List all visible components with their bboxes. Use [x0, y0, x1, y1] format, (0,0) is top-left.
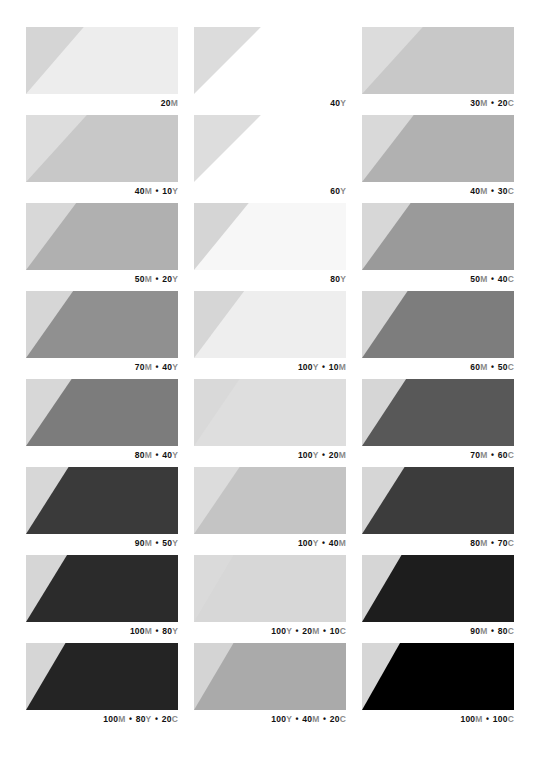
swatch-cell[interactable]: 90M • 50Y — [26, 467, 178, 555]
swatch-cell[interactable]: 40M • 10Y — [26, 115, 178, 203]
swatch-patch[interactable] — [362, 643, 514, 710]
ink-letter: C — [508, 186, 514, 196]
ink-percent: 50 — [498, 362, 508, 372]
ink-token: 60C — [498, 450, 514, 460]
swatch-grid: 20M40Y30M • 20C40M • 10Y60Y40M • 30C50M … — [26, 27, 514, 731]
swatch-patch[interactable] — [194, 379, 346, 446]
swatch-cell[interactable]: 80M • 40Y — [26, 379, 178, 467]
swatch-patch[interactable] — [362, 555, 514, 622]
swatch-label: 60Y — [194, 184, 346, 198]
swatch-cell[interactable]: 100Y • 10M — [194, 291, 346, 379]
swatch-cell[interactable]: 100M • 100C — [362, 643, 514, 731]
ink-token: 100C — [493, 714, 514, 724]
ink-token: 40C — [498, 274, 514, 284]
ink-token: 100Y — [271, 626, 292, 636]
ink-token: 20C — [162, 714, 178, 724]
swatch-patch[interactable] — [26, 379, 178, 446]
ink-letter: Y — [340, 186, 346, 196]
swatch-cell[interactable]: 20M — [26, 27, 178, 115]
label-separator: • — [319, 362, 329, 372]
ink-token: 70M — [470, 450, 487, 460]
ink-percent: 40 — [302, 714, 312, 724]
swatch-label: 100Y • 40M — [194, 536, 346, 550]
swatch-patch[interactable] — [26, 555, 178, 622]
swatch-cell[interactable]: 60Y — [194, 115, 346, 203]
ink-token: 40Y — [162, 362, 178, 372]
swatch-patch[interactable] — [194, 467, 346, 534]
swatch-cell[interactable]: 100Y • 40M • 20C — [194, 643, 346, 731]
label-separator: • — [487, 274, 497, 284]
ink-letter: M — [339, 538, 346, 548]
swatch-patch[interactable] — [26, 115, 178, 182]
swatch-patch[interactable] — [26, 203, 178, 270]
ink-token: 20C — [498, 98, 514, 108]
swatch-patch[interactable] — [194, 203, 346, 270]
ink-letter: M — [145, 626, 152, 636]
ink-letter: Y — [340, 274, 346, 284]
label-separator: • — [487, 362, 497, 372]
label-separator: • — [151, 714, 161, 724]
swatch-patch[interactable] — [194, 643, 346, 710]
swatch-patch[interactable] — [362, 379, 514, 446]
ink-percent: 20 — [162, 714, 172, 724]
swatch-patch[interactable] — [362, 203, 514, 270]
swatch-cell[interactable]: 40Y — [194, 27, 346, 115]
ink-token: 100M — [130, 626, 152, 636]
swatch-patch[interactable] — [194, 115, 346, 182]
swatch-cell[interactable]: 40M • 30C — [362, 115, 514, 203]
swatch-patch[interactable] — [194, 27, 346, 94]
swatch-cell[interactable]: 100Y • 20M • 10C — [194, 555, 346, 643]
ink-token: 50C — [498, 362, 514, 372]
ink-letter: Y — [172, 186, 178, 196]
ink-letter: C — [508, 450, 514, 460]
swatch-cell[interactable]: 100Y • 20M — [194, 379, 346, 467]
ink-percent: 40 — [135, 186, 145, 196]
ink-letter: C — [508, 626, 514, 636]
swatch-cell[interactable]: 50M • 20Y — [26, 203, 178, 291]
swatch-cell[interactable]: 70M • 40Y — [26, 291, 178, 379]
ink-token: 40Y — [330, 98, 346, 108]
swatch-cell[interactable]: 100M • 80Y — [26, 555, 178, 643]
swatch-patch[interactable] — [194, 555, 346, 622]
label-separator: • — [292, 714, 302, 724]
ink-percent: 80 — [162, 626, 172, 636]
swatch-patch[interactable] — [362, 291, 514, 358]
swatch-patch[interactable] — [26, 467, 178, 534]
swatch-cell[interactable]: 100Y • 40M — [194, 467, 346, 555]
swatch-cell[interactable]: 80Y — [194, 203, 346, 291]
ink-token: 70C — [498, 538, 514, 548]
swatch-patch[interactable] — [362, 27, 514, 94]
ink-percent: 20 — [498, 98, 508, 108]
ink-percent: 100 — [103, 714, 118, 724]
ink-token: 20M — [329, 450, 346, 460]
swatch-cell[interactable]: 50M • 40C — [362, 203, 514, 291]
swatch-patch[interactable] — [194, 291, 346, 358]
ink-percent: 80 — [136, 714, 146, 724]
swatch-patch[interactable] — [362, 467, 514, 534]
ink-token: 40M — [135, 186, 152, 196]
swatch-cell[interactable]: 60M • 50C — [362, 291, 514, 379]
swatch-cell[interactable]: 70M • 60C — [362, 379, 514, 467]
ink-percent: 20 — [161, 98, 171, 108]
ink-percent: 60 — [470, 362, 480, 372]
swatch-patch[interactable] — [362, 115, 514, 182]
swatch-label: 100M • 100C — [362, 712, 514, 726]
ink-percent: 100 — [298, 538, 313, 548]
ink-letter: M — [145, 538, 152, 548]
swatch-cell[interactable]: 30M • 20C — [362, 27, 514, 115]
swatch-cell[interactable]: 100M • 80Y • 20C — [26, 643, 178, 731]
ink-token: 20Y — [162, 274, 178, 284]
ink-percent: 70 — [470, 450, 480, 460]
ink-letter: C — [508, 714, 514, 724]
ink-token: 40Y — [162, 450, 178, 460]
swatch-patch[interactable] — [26, 291, 178, 358]
swatch-patch[interactable] — [26, 27, 178, 94]
swatch-label: 30M • 20C — [362, 96, 514, 110]
swatch-cell[interactable]: 90M • 80C — [362, 555, 514, 643]
ink-percent: 50 — [135, 274, 145, 284]
ink-percent: 90 — [470, 626, 480, 636]
swatch-patch[interactable] — [26, 643, 178, 710]
swatch-cell[interactable]: 80M • 70C — [362, 467, 514, 555]
ink-letter: Y — [340, 98, 346, 108]
ink-token: 10C — [330, 626, 346, 636]
